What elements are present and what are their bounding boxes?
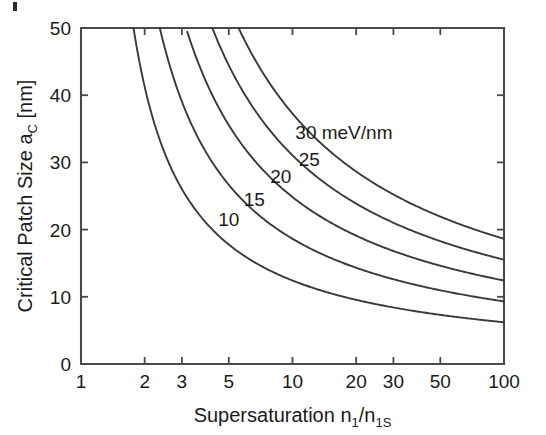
x-tick-label: 1 [76,371,87,392]
x-tick-label: 3 [177,371,188,392]
y-tick-label: 40 [50,85,71,106]
y-tick-label: 20 [50,220,71,241]
x-tick-label: 20 [346,371,367,392]
data-curve-20 [187,32,504,281]
data-curve-15 [160,28,504,301]
x-tick-label: 10 [282,371,303,392]
y-tick-label: 30 [50,152,71,173]
x-tick-label: 50 [430,371,451,392]
data-curve-10 [134,28,504,322]
y-tick-label: 10 [50,287,71,308]
y-tick-label: 0 [60,354,71,375]
curve-label-15: 15 [244,189,265,210]
curve-label-30: 30 meV/nm [295,122,392,143]
x-axis-title: Supersaturation n1/n1S [194,404,392,430]
figure-container: 010203040501235102030501001015202530 meV… [0,0,546,435]
chart-plot: 010203040501235102030501001015202530 meV… [0,0,546,435]
x-tick-label: 2 [139,371,150,392]
curve-label-25: 25 [299,149,320,170]
x-tick-label: 30 [383,371,404,392]
x-tick-label: 100 [488,371,520,392]
curve-label-20: 20 [270,166,291,187]
y-axis-title: Critical Patch Size aC [nm] [14,80,40,313]
y-tick-label: 50 [50,18,71,39]
x-tick-label: 5 [224,371,235,392]
curve-label-10: 10 [218,209,239,230]
